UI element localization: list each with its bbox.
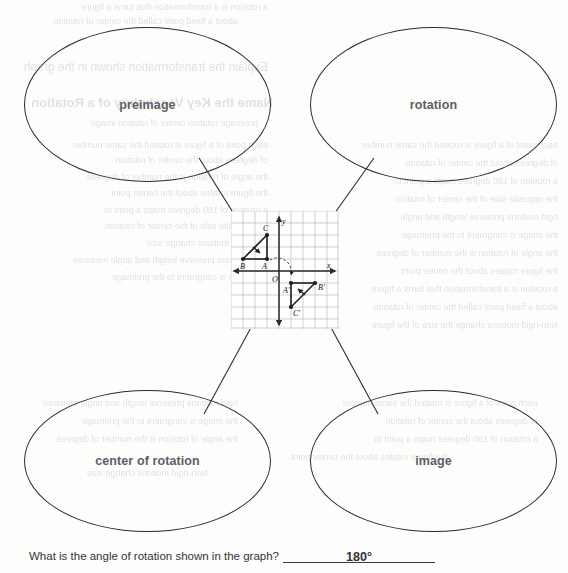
image-vertices (289, 281, 317, 309)
label-a-prime: A' (282, 286, 290, 295)
node-image-label: image (415, 454, 452, 468)
coordinate-graph-svg: y x O C B A A' B' C' (231, 211, 339, 329)
node-rotation-label: rotation (410, 98, 457, 112)
node-center-of-rotation[interactable]: center of rotation (24, 390, 271, 532)
answer-value: 180° (346, 550, 372, 564)
question-text: What is the angle of rotation shown in t… (29, 550, 279, 562)
question-row: What is the angle of rotation shown in t… (29, 546, 435, 563)
node-rotation[interactable]: rotation (310, 27, 557, 182)
label-a: A (261, 262, 267, 271)
image-triangle-a-prime (291, 283, 315, 307)
label-c: C (263, 224, 269, 233)
node-preimage[interactable]: preimage (24, 27, 271, 182)
preimage-triangle-abc (243, 235, 267, 259)
label-origin: O (272, 275, 278, 284)
vertex-c-prime (289, 305, 293, 309)
preimage-vertices (241, 233, 269, 261)
label-c-prime: C' (293, 309, 300, 318)
vertex-a (265, 257, 269, 261)
label-b: B (240, 262, 245, 271)
node-center-of-rotation-label: center of rotation (95, 454, 200, 468)
worksheet-page: a rotation is a transformation that turn… (0, 0, 568, 573)
vertex-c (265, 233, 269, 237)
vertex-a-prime (289, 281, 293, 285)
label-y: y (281, 217, 286, 226)
rotation-arc (270, 258, 291, 275)
image-direction-tick (298, 289, 305, 295)
vertex-b-prime (313, 281, 317, 285)
answer-blank[interactable]: 180° (283, 546, 435, 563)
node-image[interactable]: image (310, 390, 557, 532)
vertex-b (241, 257, 245, 261)
grid-lines (231, 211, 339, 329)
label-b-prime: B' (318, 283, 325, 292)
coordinate-graph: y x O C B A A' B' C' (231, 211, 339, 329)
label-x: x (326, 261, 331, 270)
preimage-direction-tick (253, 247, 260, 253)
node-preimage-label: preimage (119, 98, 175, 112)
